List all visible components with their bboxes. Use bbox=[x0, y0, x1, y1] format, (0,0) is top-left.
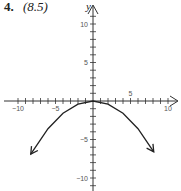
graph: −10−5510 105−5−10 y bbox=[0, 0, 181, 191]
svg-text:−10: −10 bbox=[76, 175, 88, 182]
svg-text:−5: −5 bbox=[80, 136, 88, 143]
svg-text:10: 10 bbox=[164, 105, 172, 112]
curve-arrow-right-icon bbox=[147, 144, 154, 152]
svg-text:−5: −5 bbox=[52, 105, 60, 112]
svg-text:−10: −10 bbox=[12, 105, 24, 112]
svg-text:10: 10 bbox=[80, 21, 88, 28]
y-axis-label: y bbox=[85, 0, 91, 12]
svg-text:5: 5 bbox=[84, 59, 88, 66]
svg-text:5: 5 bbox=[129, 90, 133, 97]
curve-arrow-left-icon bbox=[31, 146, 38, 154]
